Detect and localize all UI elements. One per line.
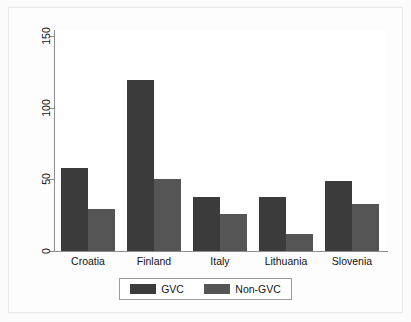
- bar-finland-gvc: [127, 80, 154, 251]
- y-tick-label-text: 0: [40, 248, 52, 254]
- bar-finland-non-gvc: [154, 179, 181, 251]
- legend-swatch-non-gvc: [204, 284, 230, 294]
- bar-slovenia-non-gvc: [352, 204, 379, 251]
- bar-croatia-gvc: [61, 168, 88, 251]
- legend-swatch-gvc: [130, 284, 156, 294]
- bar-italy-non-gvc: [220, 214, 247, 251]
- legend-item-gvc: GVC: [130, 283, 184, 295]
- x-axis-line: [54, 251, 388, 252]
- x-axis-label-slovenia: Slovenia: [332, 255, 372, 267]
- x-axis-label-finland: Finland: [137, 255, 171, 267]
- chart-legend: GVCNon-GVC: [119, 278, 292, 300]
- bar-italy-gvc: [193, 197, 220, 251]
- plot-area: [55, 30, 385, 251]
- bar-croatia-non-gvc: [88, 209, 115, 251]
- y-tick-label-text: 50: [40, 173, 52, 185]
- x-axis-label-croatia: Croatia: [71, 255, 105, 267]
- chart-figure: 150100500 CroatiaFinlandItalyLithuaniaSl…: [0, 0, 411, 322]
- legend-label: Non-GVC: [235, 283, 281, 295]
- legend-label: GVC: [161, 283, 184, 295]
- y-tick-label-text: 150: [40, 27, 52, 45]
- bar-lithuania-gvc: [259, 197, 286, 251]
- x-axis-label-lithuania: Lithuania: [265, 255, 308, 267]
- legend-item-non-gvc: Non-GVC: [204, 283, 281, 295]
- y-tick-label-text: 100: [40, 99, 52, 117]
- bar-slovenia-gvc: [325, 181, 352, 251]
- x-axis-label-italy: Italy: [210, 255, 229, 267]
- bar-lithuania-non-gvc: [286, 234, 313, 251]
